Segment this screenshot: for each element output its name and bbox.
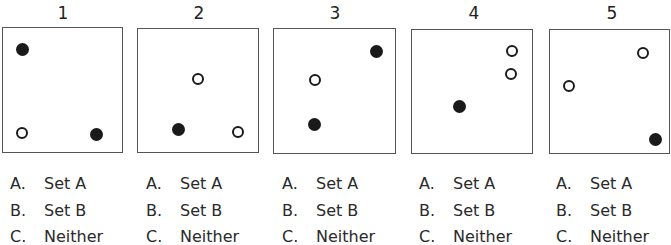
option-label: Neither (453, 225, 512, 245)
option-letter: A. (282, 172, 298, 196)
panel-number: 2 (184, 2, 214, 24)
panel-box-1 (2, 27, 123, 153)
option-label: Neither (44, 225, 103, 245)
open-circle-icon (563, 80, 575, 92)
filled-circle-icon (308, 118, 321, 131)
panel-number: 1 (48, 2, 78, 24)
option-letter: A. (146, 172, 162, 196)
open-circle-icon (506, 45, 518, 57)
open-circle-icon (232, 126, 244, 138)
open-circle-icon (16, 127, 28, 139)
option-letter: B. (146, 199, 162, 223)
option-letter: B. (556, 199, 572, 223)
option-letter: C. (146, 225, 162, 245)
open-circle-icon (309, 74, 321, 86)
option-label: Set B (44, 199, 86, 223)
option-letter: C. (282, 225, 298, 245)
option-letter: C. (556, 225, 572, 245)
option-letter: B. (282, 199, 298, 223)
option-label: Neither (590, 225, 649, 245)
panel-box-4 (411, 29, 533, 154)
panel-box-2 (137, 28, 259, 153)
option-letter: C. (419, 225, 435, 245)
option-label: Neither (316, 225, 375, 245)
option-letter: A. (419, 172, 435, 196)
panel-number: 5 (597, 2, 627, 24)
option-label: Set B (180, 199, 222, 223)
filled-circle-icon (172, 123, 185, 136)
filled-circle-icon (370, 45, 383, 58)
panel-box-3 (273, 28, 396, 154)
option-label: Set A (590, 172, 632, 196)
filled-circle-icon (90, 128, 103, 141)
option-letter: C. (10, 225, 26, 245)
option-letter: B. (10, 199, 26, 223)
panel-number: 4 (459, 2, 489, 24)
option-letter: A. (10, 172, 26, 196)
option-label: Set A (44, 172, 86, 196)
option-letter: A. (556, 172, 572, 196)
option-label: Set A (180, 172, 222, 196)
option-label: Set A (453, 172, 495, 196)
option-label: Set A (316, 172, 358, 196)
option-letter: B. (419, 199, 435, 223)
panel-number: 3 (320, 2, 350, 24)
filled-circle-icon (649, 133, 662, 146)
open-circle-icon (505, 68, 517, 80)
option-label: Set B (316, 199, 358, 223)
filled-circle-icon (453, 100, 466, 113)
open-circle-icon (637, 47, 649, 59)
panel-box-5 (549, 29, 670, 154)
option-label: Set B (590, 199, 632, 223)
filled-circle-icon (16, 43, 29, 56)
open-circle-icon (192, 73, 204, 85)
option-label: Set B (453, 199, 495, 223)
option-label: Neither (180, 225, 239, 245)
